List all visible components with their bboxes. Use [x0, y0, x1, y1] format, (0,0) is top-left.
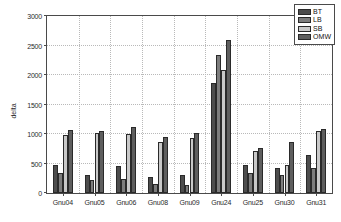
- legend: BTLBSBOMW: [294, 4, 335, 45]
- x-tick-label: Gnu30: [274, 199, 294, 206]
- legend-swatch-icon: [298, 9, 311, 15]
- x-tick-label: Gnu06: [116, 199, 136, 206]
- y-tick-label: 0: [8, 190, 42, 197]
- legend-swatch-icon: [298, 26, 311, 32]
- y-tick-mark: [44, 104, 47, 105]
- bar: [131, 127, 136, 193]
- bar: [194, 133, 199, 193]
- x-tick-mark: [190, 193, 191, 196]
- gridline-vertical: [237, 16, 238, 193]
- y-tick-label: 2000: [8, 72, 42, 79]
- y-tick-label: 1500: [8, 101, 42, 108]
- legend-item[interactable]: OMW: [298, 33, 331, 41]
- x-tick-mark: [221, 193, 222, 196]
- bar: [289, 142, 294, 193]
- legend-label: LB: [313, 16, 322, 24]
- bar: [226, 40, 231, 193]
- bar: [258, 148, 263, 193]
- x-tick-label: Gnu25: [243, 199, 263, 206]
- y-tick-mark: [44, 45, 47, 46]
- x-tick-mark: [285, 193, 286, 196]
- gridline-vertical: [142, 16, 143, 193]
- x-tick-mark: [95, 193, 96, 196]
- gridline-vertical: [174, 16, 175, 193]
- legend-swatch-icon: [298, 17, 311, 23]
- legend-label: SB: [313, 25, 322, 33]
- gridline-vertical: [79, 16, 80, 193]
- bar: [99, 131, 104, 193]
- y-tick-label: 2500: [8, 42, 42, 49]
- gridline-horizontal: [47, 133, 332, 134]
- x-tick-label: Gnu08: [148, 199, 168, 206]
- y-tick-mark: [44, 192, 47, 193]
- bar: [163, 137, 168, 193]
- gridline-horizontal: [47, 74, 332, 75]
- x-tick-label: Gnu04: [53, 199, 73, 206]
- y-tick-mark: [44, 133, 47, 134]
- gridline-vertical: [110, 16, 111, 193]
- gridline-horizontal: [47, 45, 332, 46]
- bar: [321, 129, 326, 193]
- y-tick-label: 500: [8, 160, 42, 167]
- x-tick-mark: [63, 193, 64, 196]
- y-tick-label: 1000: [8, 131, 42, 138]
- x-tick-mark: [316, 193, 317, 196]
- x-tick-mark: [253, 193, 254, 196]
- legend-item[interactable]: BT: [298, 8, 331, 16]
- x-tick-label: Gnu31: [306, 199, 326, 206]
- legend-label: OMW: [313, 33, 331, 41]
- legend-item[interactable]: SB: [298, 25, 331, 33]
- y-tick-mark: [44, 15, 47, 16]
- legend-label: BT: [313, 8, 322, 16]
- legend-swatch-icon: [298, 34, 311, 40]
- y-tick-mark: [44, 74, 47, 75]
- gridline-vertical: [269, 16, 270, 193]
- plot-area: 050010001500200025003000 Gnu04Gnu05Gnu06…: [46, 15, 333, 194]
- gridline-vertical: [205, 16, 206, 193]
- legend-item[interactable]: LB: [298, 16, 331, 24]
- bar-chart: delta 050010001500200025003000 Gnu04Gnu0…: [0, 0, 341, 222]
- x-tick-mark: [126, 193, 127, 196]
- y-tick-mark: [44, 163, 47, 164]
- x-tick-label: Gnu05: [84, 199, 104, 206]
- y-tick-label: 3000: [8, 13, 42, 20]
- gridline-horizontal: [47, 104, 332, 105]
- bar: [68, 130, 73, 193]
- x-tick-label: Gnu09: [179, 199, 199, 206]
- x-tick-label: Gnu24: [211, 199, 231, 206]
- x-tick-mark: [158, 193, 159, 196]
